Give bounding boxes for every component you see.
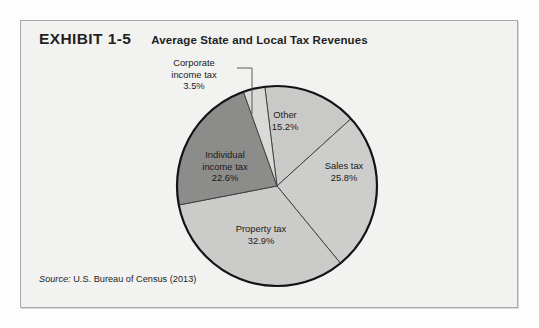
exhibit-frame: EXHIBIT 1-5 Average State and Local Tax …: [20, 20, 518, 308]
individual-label-line2: income tax: [183, 161, 267, 173]
corporate-label-value: 3.5%: [151, 80, 237, 92]
sales-label-name: Sales tax: [309, 160, 379, 172]
individual-label-line1: Individual: [183, 149, 267, 161]
other-label-name: Other: [253, 109, 317, 121]
corporate-label-line1: Corporate: [151, 57, 237, 69]
pie-label-sales-tax: Sales tax 25.8%: [309, 160, 379, 183]
pie-label-property-tax: Property tax 32.9%: [217, 223, 305, 246]
corporate-label-line2: income tax: [151, 69, 237, 81]
sales-label-value: 25.8%: [309, 172, 379, 184]
pie-chart-svg: [21, 21, 519, 309]
source-note: Source: U.S. Bureau of Census (2013): [39, 274, 196, 284]
pie-label-other: Other 15.2%: [253, 109, 317, 132]
individual-label-value: 22.6%: [183, 172, 267, 184]
source-value: U.S. Bureau of Census (2013): [71, 274, 197, 284]
pie-chart: Corporate income tax 3.5% Other 15.2% Sa…: [21, 21, 519, 309]
pie-label-corporate-income-tax: Corporate income tax 3.5%: [151, 57, 237, 92]
source-label: Source:: [39, 274, 71, 284]
page-background: EXHIBIT 1-5 Average State and Local Tax …: [0, 0, 539, 328]
property-label-name: Property tax: [217, 223, 305, 235]
property-label-value: 32.9%: [217, 235, 305, 247]
other-label-value: 15.2%: [253, 121, 317, 133]
pie-label-individual-income-tax: Individual income tax 22.6%: [183, 149, 267, 184]
